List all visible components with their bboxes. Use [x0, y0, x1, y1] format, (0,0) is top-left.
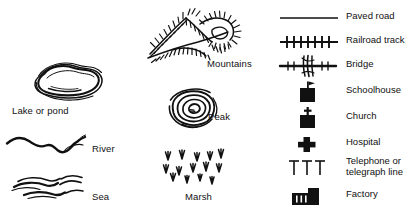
railroad-track-label: Railroad track — [346, 35, 405, 46]
sea-label: Sea — [92, 191, 109, 202]
cultural-features-list: Paved road Railroad track — [278, 4, 420, 214]
church-label: Church — [346, 111, 377, 122]
peak-label: Peak — [208, 111, 230, 122]
factory-label: Factory — [346, 189, 378, 200]
bridge-icon — [278, 54, 340, 78]
paved-road-label: Paved road — [346, 11, 395, 22]
map-symbol-legend-sheet: Lake or pond River — [0, 0, 420, 216]
legend-row-factory: Factory — [278, 184, 420, 208]
bridge-label: Bridge — [346, 59, 373, 70]
legend-row-schoolhouse: Schoolhouse — [278, 80, 420, 104]
hospital-icon — [278, 132, 340, 156]
schoolhouse-icon — [278, 80, 340, 104]
marsh-label: Marsh — [185, 191, 212, 202]
telephone-line-icon — [278, 156, 340, 180]
legend-row-hospital: Hospital — [278, 132, 420, 156]
river-label: River — [92, 143, 115, 154]
railroad-track-icon — [278, 30, 340, 54]
sea-icon — [4, 172, 90, 210]
legend-row-church: Church — [278, 106, 420, 130]
telephone-line-label: Telephone or telegraph line — [346, 156, 403, 177]
schoolhouse-label: Schoolhouse — [346, 85, 401, 96]
legend-row-railroad-track: Railroad track — [278, 30, 420, 54]
church-icon — [278, 106, 340, 130]
factory-icon — [278, 184, 340, 208]
marsh-icon — [160, 148, 242, 194]
hospital-label: Hospital — [346, 137, 380, 148]
lake-or-pond-icon — [24, 62, 108, 106]
river-icon — [4, 130, 90, 164]
mountains-label: Mountains — [207, 58, 252, 69]
legend-row-bridge: Bridge — [278, 54, 420, 78]
legend-row-telephone-line: Telephone or telegraph line — [278, 156, 420, 180]
legend-row-paved-road: Paved road — [278, 6, 420, 30]
lake-or-pond-label: Lake or pond — [12, 105, 69, 116]
paved-road-icon — [278, 6, 340, 30]
